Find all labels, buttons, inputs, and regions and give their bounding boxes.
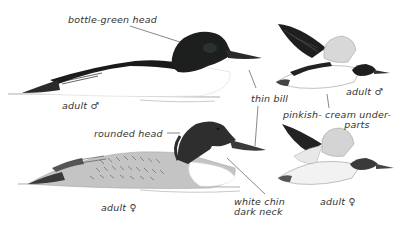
label-pinkish-cream-underparts: pinkish- cream under- parts bbox=[283, 110, 391, 130]
male-swimming-bird bbox=[8, 32, 262, 102]
label-white-chin-dark-neck: white chin dark neck bbox=[234, 197, 285, 217]
caption-male-flying: adult ♂ bbox=[346, 87, 383, 97]
caption-female-swimming: adult ♀ bbox=[101, 203, 137, 213]
label-bottle-green-head: bottle-green head bbox=[68, 15, 157, 25]
merganser-illustration: bottle-green head adult ♂ thin bill adul… bbox=[0, 0, 415, 230]
female-flying-bird bbox=[278, 124, 394, 184]
label-rounded-head: rounded head bbox=[94, 129, 163, 139]
male-flying-bird bbox=[276, 24, 390, 88]
caption-female-flying: adult ♀ bbox=[320, 197, 356, 207]
label-thin-bill: thin bill bbox=[251, 94, 288, 104]
caption-male-swimming: adult ♂ bbox=[62, 101, 99, 111]
